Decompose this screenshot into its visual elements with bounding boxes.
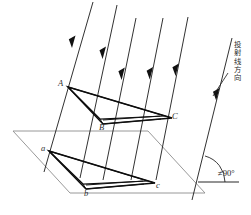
label-vertex-a: a [41,143,45,153]
ray-arrowhead-2 [100,47,107,60]
ray-arrowhead-1 [69,36,76,49]
projection-ray-5 [156,17,188,180]
angle-not-90-label: ≠90° [218,168,235,178]
projected-triangle-abc [49,151,155,189]
label-vertex-b: b [84,188,88,198]
label-vertex-B: B [99,122,104,132]
projection-direction-label: 投 射 线 方 向 [233,41,242,82]
projection-ray-4 [131,18,163,180]
label-vertex-c: c [156,180,160,190]
projection-rays-group [44,2,232,200]
projection-diagram-svg [0,0,251,215]
direction-leader-line [213,73,228,96]
label-vertex-A: A [58,78,63,88]
label-vertex-C: C [172,111,178,121]
diagram-canvas: A B C a b c 投 射 线 方 向 ≠90° [0,0,251,215]
object-triangle-ABC [68,87,172,124]
